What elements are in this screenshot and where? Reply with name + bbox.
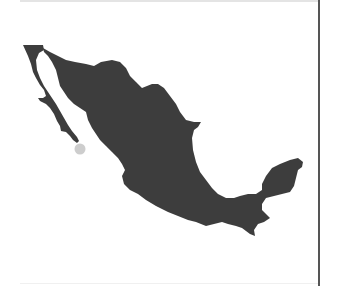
panel-divider — [318, 0, 320, 286]
bottom-border — [20, 283, 318, 284]
mexico-map[interactable] — [0, 0, 340, 286]
mexico-country-shape[interactable] — [23, 45, 303, 236]
mainland-mexico[interactable] — [43, 48, 303, 236]
location-marker[interactable] — [75, 144, 86, 155]
